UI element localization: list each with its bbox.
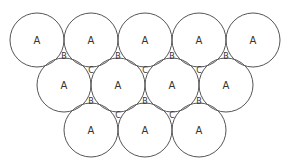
gap-label-c: C	[115, 111, 121, 120]
circle-label: A	[169, 80, 176, 91]
gap-label-b: B	[223, 52, 229, 61]
circle-a: A	[172, 103, 226, 157]
circle-label: A	[61, 80, 68, 91]
circle-label: A	[34, 35, 41, 46]
gap-label-c: C	[88, 66, 94, 75]
gap-label-b: B	[142, 97, 148, 106]
circle-label: A	[88, 35, 95, 46]
circle-label: A	[88, 125, 95, 136]
circle-label: A	[196, 35, 203, 46]
circle-label: A	[250, 35, 257, 46]
circle-a: A	[64, 103, 118, 157]
gap-label-c: C	[142, 66, 148, 75]
circle-label: A	[223, 80, 230, 91]
gap-label-c: C	[196, 66, 202, 75]
diagram-canvas: AAAAAAAAAAAABBBBCCCBBBCC	[0, 0, 292, 168]
gap-label-b: B	[115, 52, 121, 61]
circle-a: A	[118, 103, 172, 157]
gap-label-b: B	[196, 97, 202, 106]
circle-packing-diagram: AAAAAAAAAAAABBBBCCCBBBCC	[0, 0, 292, 168]
gap-label-b: B	[88, 97, 94, 106]
circle-label: A	[115, 80, 122, 91]
gap-label-c: C	[169, 111, 175, 120]
circle-label: A	[196, 125, 203, 136]
gap-label-b: B	[169, 52, 175, 61]
gap-label-b: B	[61, 52, 67, 61]
circle-label: A	[142, 125, 149, 136]
circle-label: A	[142, 35, 149, 46]
